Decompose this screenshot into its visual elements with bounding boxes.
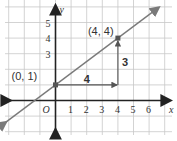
point-label: (0, 1) xyxy=(12,70,38,82)
x-axis-label: x xyxy=(168,104,174,115)
origin-label: O xyxy=(43,104,50,115)
x-tick-label: 1 xyxy=(68,104,73,115)
run-label: 4 xyxy=(84,73,91,85)
y-axis-label: y xyxy=(59,4,65,15)
rise-label: 3 xyxy=(122,56,128,68)
x-tick-label: 2 xyxy=(84,104,89,115)
point-marker xyxy=(115,36,120,41)
x-tick-label: 5 xyxy=(131,104,136,115)
x-tick-label: 4 xyxy=(115,104,120,115)
grid xyxy=(5,0,172,135)
graph-line xyxy=(6,8,159,123)
y-tick-label: 5 xyxy=(46,18,51,29)
x-tick-label: 3 xyxy=(99,104,104,115)
y-tick-label: 4 xyxy=(46,33,51,44)
coordinate-graph: 123456345 x y O (0, 1) (4, 4) 4 3 xyxy=(0,0,177,141)
point-marker xyxy=(53,82,58,87)
point-label: (4, 4) xyxy=(88,25,114,37)
y-tick-label: 3 xyxy=(46,49,51,60)
x-tick-label: 6 xyxy=(146,104,151,115)
